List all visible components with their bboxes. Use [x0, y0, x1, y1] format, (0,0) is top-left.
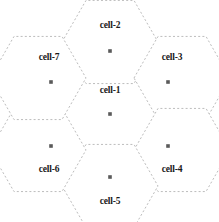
label-cell-6: cell-6: [39, 165, 59, 175]
hexagonal-cell-cluster-diagram: cell-1cell-2cell-3cell-4cell-5cell-6cell…: [0, 0, 219, 222]
cell-cluster-canvas: [0, 0, 219, 222]
center-dot-cell-4: [166, 144, 170, 148]
center-dot-cell-7: [49, 80, 53, 84]
label-cell-1: cell-1: [100, 86, 120, 96]
label-cell-7: cell-7: [39, 53, 59, 63]
center-dot-cell-2: [108, 49, 112, 53]
center-dot-cell-5: [108, 175, 112, 179]
center-dot-cell-3: [166, 80, 170, 84]
center-dot-cell-6: [49, 144, 53, 148]
center-dot-cell-1: [108, 112, 112, 116]
label-cell-2: cell-2: [100, 21, 120, 31]
label-cell-4: cell-4: [162, 165, 182, 175]
label-cell-3: cell-3: [162, 53, 182, 63]
hexagon-layer: [0, 0, 219, 222]
label-cell-5: cell-5: [100, 197, 120, 207]
